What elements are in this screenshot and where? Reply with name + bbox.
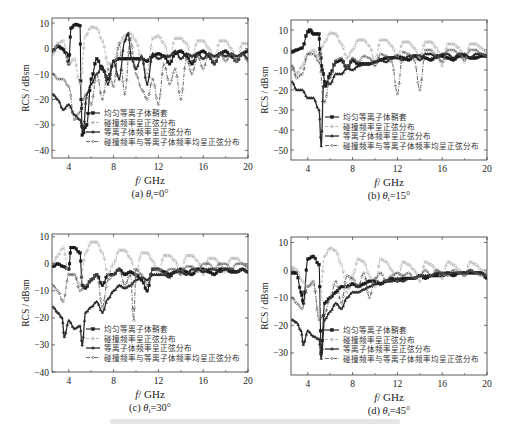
- legend-label: 均匀等离子体鞘套: [104, 108, 168, 118]
- legend: 均匀等离子体鞘套碰撞频率呈正弦分布等离子体频率呈正弦分布碰撞频率与等离子体频率均…: [86, 324, 240, 363]
- y-axis-label: RCS / dBsm: [21, 279, 31, 327]
- x-tick-label: 4: [66, 376, 71, 386]
- legend-label: 碰撞频率呈正弦分布: [104, 334, 176, 344]
- x-tick-label: 8: [111, 376, 116, 386]
- panel-subtitle: (d) θi=45°: [368, 405, 411, 418]
- y-tick-label: −30: [34, 340, 49, 350]
- y-tick-label: −30: [273, 348, 288, 358]
- panel-subtitle: (a) θi=0°: [132, 188, 169, 201]
- figure-caption-faint: [110, 419, 400, 424]
- y-tick-label: −20: [34, 95, 49, 105]
- y-tick-label: −50: [273, 146, 288, 156]
- y-tick-label: −20: [273, 86, 288, 96]
- legend: 均匀等离子体鞘套碰撞频率呈正弦分布等离子体频率呈正弦分布碰撞频率与等离子体频率均…: [325, 112, 479, 151]
- x-tick-label: 12: [393, 379, 403, 389]
- legend-label: 碰撞频率与等离子体频率均呈正弦分布: [343, 354, 479, 364]
- y-tick-label: 0: [283, 266, 288, 276]
- legend-label: 等离子体频率呈正弦分布: [104, 343, 192, 353]
- x-tick-label: 20: [482, 164, 492, 174]
- panel-subtitle: (c) θi=30°: [129, 402, 171, 415]
- y-tick-label: −40: [34, 368, 49, 378]
- y-tick-label: −20: [34, 313, 49, 323]
- x-tick-label: 8: [350, 379, 355, 389]
- y-tick-label: 10: [279, 26, 289, 36]
- chart-panel-d: 100−10−20−3048121620RCS / dBsmf/ GHz(d) …: [260, 237, 492, 418]
- x-axis-label: f/ GHz: [135, 388, 165, 400]
- y-tick-label: 10: [279, 238, 289, 248]
- x-tick-label: 20: [482, 379, 492, 389]
- y-tick-label: −10: [273, 293, 288, 303]
- y-tick-label: −40: [34, 146, 49, 156]
- x-tick-label: 16: [437, 379, 447, 389]
- legend-label: 碰撞频率呈正弦分布: [104, 118, 176, 128]
- legend-label: 均匀等离子体鞘套: [343, 325, 407, 335]
- x-axis-label: f/ GHz: [374, 176, 404, 188]
- legend-label: 等离子体频率呈正弦分布: [343, 344, 431, 354]
- x-tick-label: 8: [111, 162, 116, 172]
- chart-panel-a: 100−10−20−30−4048121620RCS / dBsmf/ GHz(…: [21, 18, 253, 201]
- y-tick-label: 0: [44, 44, 49, 54]
- x-tick-label: 12: [393, 164, 403, 174]
- y-axis-label: RCS / dBsm: [260, 282, 270, 330]
- x-tick-label: 12: [154, 162, 164, 172]
- y-tick-label: −40: [273, 126, 288, 136]
- y-tick-label: −10: [273, 66, 288, 76]
- x-tick-label: 8: [350, 164, 355, 174]
- y-tick-label: 10: [40, 232, 50, 242]
- y-tick-label: −30: [273, 106, 288, 116]
- legend-label: 碰撞频率与等离子体频率均呈正弦分布: [104, 353, 240, 363]
- x-tick-label: 4: [305, 379, 310, 389]
- y-axis-label: RCS / dBsm: [260, 66, 270, 114]
- y-tick-label: −10: [34, 286, 49, 296]
- panel-subtitle: (b) θi=15°: [368, 190, 411, 203]
- chart-panel-b: 100−10−20−30−40−5048121620RCS / dBsmf/ G…: [260, 20, 492, 203]
- x-tick-label: 4: [66, 162, 71, 172]
- y-tick-label: 0: [44, 259, 49, 269]
- legend-label: 碰撞频率与等离子体频率均呈正弦分布: [343, 141, 479, 151]
- legend-label: 均匀等离子体鞘套: [104, 324, 168, 334]
- x-axis-label: f/ GHz: [374, 391, 404, 403]
- legend-label: 等离子体频率呈正弦分布: [343, 131, 431, 141]
- x-tick-label: 16: [198, 162, 208, 172]
- legend-label: 等离子体频率呈正弦分布: [104, 127, 192, 137]
- y-tick-label: 0: [283, 46, 288, 56]
- legend-label: 均匀等离子体鞘套: [343, 112, 407, 122]
- legend-label: 碰撞频率呈正弦分布: [343, 122, 415, 132]
- legend-label: 碰撞频率与等离子体频率均呈正弦分布: [104, 137, 240, 147]
- y-tick-label: −20: [273, 321, 288, 331]
- x-tick-label: 12: [154, 376, 164, 386]
- y-tick-label: −10: [34, 70, 49, 80]
- legend: 均匀等离子体鞘套碰撞频率呈正弦分布等离子体频率呈正弦分布碰撞频率与等离子体频率均…: [86, 108, 240, 147]
- y-tick-label: −30: [34, 120, 49, 130]
- x-axis-label: f/ GHz: [135, 174, 165, 186]
- x-tick-label: 4: [305, 164, 310, 174]
- x-tick-label: 16: [198, 376, 208, 386]
- y-tick-label: 10: [40, 19, 50, 29]
- x-tick-label: 16: [437, 164, 447, 174]
- legend-label: 碰撞频率呈正弦分布: [343, 335, 415, 345]
- x-tick-label: 20: [243, 162, 253, 172]
- x-tick-label: 20: [243, 376, 253, 386]
- legend: 均匀等离子体鞘套碰撞频率呈正弦分布等离子体频率呈正弦分布碰撞频率与等离子体频率均…: [325, 325, 479, 364]
- chart-panel-c: 100−10−20−30−4048121620RCS / dBsmf/ GHz(…: [21, 232, 253, 415]
- figure-rcs-vs-frequency: 100−10−20−30−4048121620RCS / dBsmf/ GHz(…: [0, 0, 507, 427]
- y-axis-label: RCS / dBsm: [21, 64, 31, 112]
